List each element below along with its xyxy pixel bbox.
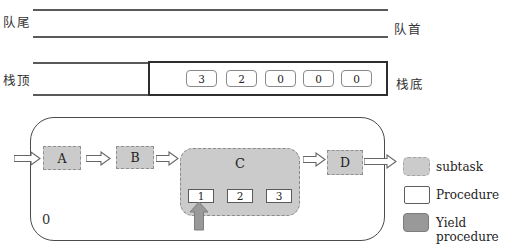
node-d: D	[327, 150, 363, 175]
legend-procedure-label: Procedure	[436, 188, 499, 202]
node-a-label: A	[57, 151, 66, 166]
stack-cell: 3	[186, 70, 217, 87]
stack-cell: 0	[341, 70, 372, 87]
arrow-c-d-icon	[303, 152, 326, 167]
queue-bottom-line	[33, 36, 388, 38]
diagram-canvas: 队尾 队首 栈顶 3 2 0 0 0 栈底 0 A B C 1 2 3	[0, 0, 506, 250]
exit-arrow-icon	[364, 154, 397, 169]
stack-cell: 0	[303, 70, 334, 87]
legend-subtask-label: subtask	[436, 160, 483, 174]
arrow-b-c-icon	[156, 151, 179, 166]
stack-top-label: 栈顶	[3, 70, 31, 89]
node-a: A	[43, 146, 81, 170]
node-d-label: D	[340, 155, 350, 170]
legend-yield-label: Yield procedure	[436, 216, 506, 244]
stack-cell: 2	[226, 70, 257, 87]
queue-tail-label: 队尾	[3, 12, 31, 31]
procedure-container-label: 0	[42, 212, 50, 227]
node-b: B	[116, 146, 154, 169]
legend-procedure-swatch	[404, 186, 430, 204]
queue-top-line	[33, 9, 388, 11]
c-subtask-cell: 2	[227, 189, 253, 203]
stack-cell: 0	[265, 70, 296, 87]
yield-pointer-arrow-icon	[189, 202, 209, 231]
stack-bottom-label: 栈底	[396, 74, 424, 93]
entry-arrow-icon	[14, 151, 41, 166]
arrow-a-b-icon	[86, 151, 111, 166]
node-b-label: B	[130, 150, 139, 165]
queue-head-label: 队首	[394, 19, 422, 38]
legend-yield-swatch	[403, 213, 429, 232]
legend-subtask-swatch	[403, 157, 430, 176]
c-subtask-cell: 1	[188, 189, 214, 203]
c-subtask-cell: 3	[266, 189, 292, 203]
node-c-label: C	[181, 156, 299, 171]
